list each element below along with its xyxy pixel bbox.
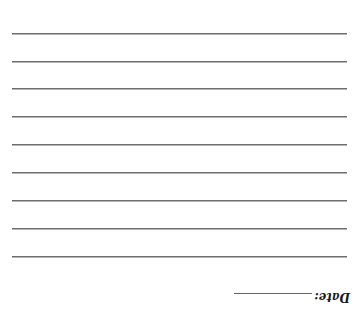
- ruled-line: [12, 228, 347, 230]
- date-label: Date:: [314, 289, 350, 305]
- ruled-line: [12, 144, 347, 146]
- ruled-line: [12, 200, 347, 202]
- ruled-line: [12, 256, 347, 258]
- ruled-line: [12, 172, 347, 174]
- ruled-line: [12, 61, 347, 63]
- date-write-line: [234, 293, 312, 294]
- ruled-line: [12, 88, 347, 90]
- date-field: Date:: [232, 289, 350, 305]
- ruled-line: [12, 116, 347, 118]
- ruled-line: [12, 33, 347, 35]
